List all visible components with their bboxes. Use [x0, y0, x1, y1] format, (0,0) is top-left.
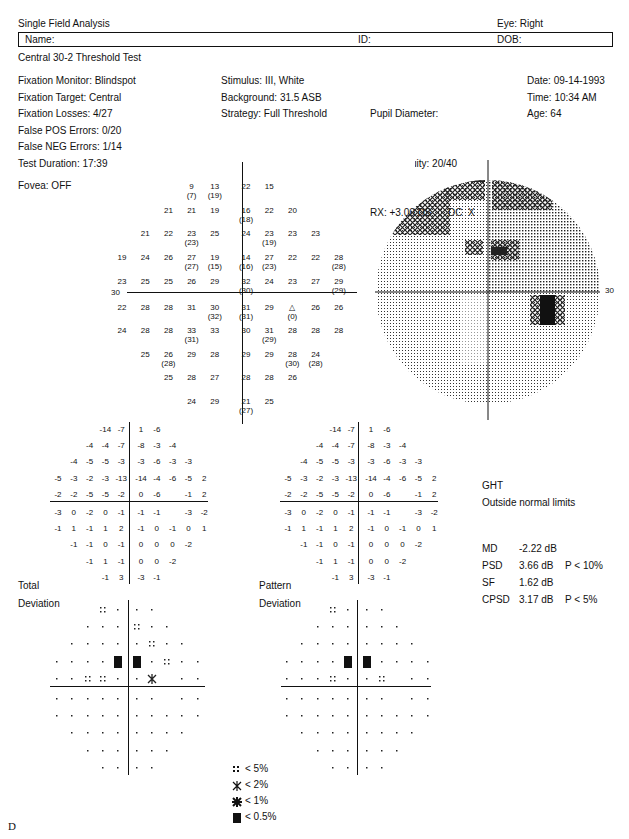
probability-symbol-icon [391, 727, 403, 739]
probability-symbol-icon [391, 621, 403, 633]
probability-symbol-icon [176, 727, 188, 739]
threshold-value: 29 [204, 277, 226, 286]
threshold-value: 31(29) [258, 326, 280, 344]
threshold-value: 27 [204, 373, 226, 382]
probability-symbol-icon [82, 745, 94, 757]
figure-letter: D [8, 820, 16, 832]
probability-symbol-icon [422, 673, 434, 685]
threshold-value: △(0) [281, 303, 303, 321]
threshold-value: 28 [181, 373, 203, 382]
threshold-value: 26 [157, 253, 179, 262]
probability-symbol-icon [192, 673, 204, 685]
deviation-value: -3 [133, 573, 149, 582]
probability-symbol-icon [361, 710, 373, 722]
threshold-value: 26(28) [157, 350, 179, 368]
global-indices: MD-2.22 dB PSD3.66 dBP < 10% SF1.62 dB C… [482, 540, 603, 608]
probability-symbol-icon [176, 693, 188, 705]
probability-symbol-icon [97, 638, 109, 650]
deviation-value: -1 [180, 490, 196, 499]
deviation-value: -2 [82, 474, 98, 483]
deviation-value: -4 [327, 441, 343, 450]
deviation-value: -3 [113, 457, 129, 466]
pattern-label: Pattern [259, 580, 291, 591]
threshold-value: 28 [157, 326, 179, 335]
deviation-value: -3 [363, 573, 379, 582]
probability-symbol-icon [342, 621, 354, 633]
probability-symbol-icon [391, 638, 403, 650]
probability-symbol-icon [146, 693, 158, 705]
dark-hatch-symbol-icon [232, 797, 242, 807]
threshold-value: 24 [181, 397, 203, 406]
probability-symbol-icon [131, 673, 143, 685]
threshold-value: 28 [157, 303, 179, 312]
deviation-value: -1 [410, 490, 426, 499]
probability-symbol-icon [342, 673, 354, 685]
deviation-value: -5 [312, 457, 328, 466]
threshold-value: 24(28) [305, 350, 327, 368]
probability-symbol-icon [342, 710, 354, 722]
deviation-value: -1 [363, 524, 379, 533]
deviation-value: 0 [149, 540, 165, 549]
deviation-value: 0 [395, 540, 411, 549]
probability-symbol-icon [342, 656, 354, 668]
deviation-value: 0 [379, 540, 395, 549]
total-deviation-label: Deviation [18, 598, 60, 609]
probability-symbol-icon [146, 621, 158, 633]
probability-symbol-icon [327, 604, 339, 616]
pp-vertical-axis [357, 600, 358, 775]
threshold-value: 25 [134, 277, 156, 286]
probability-symbol-icon [361, 621, 373, 633]
deviation-value: 0 [363, 557, 379, 566]
deviation-value: -13 [113, 474, 129, 483]
pattern-deviation-label: Deviation [259, 598, 301, 609]
deviation-value: 3 [343, 573, 359, 582]
deviation-value: -2 [82, 508, 98, 517]
probability-symbol-icon [406, 710, 418, 722]
grayscale-map [360, 155, 629, 425]
probability-symbol-icon [97, 727, 109, 739]
deviation-value: -1 [149, 573, 165, 582]
threshold-value: 22 [305, 253, 327, 262]
probability-symbol-icon [361, 693, 373, 705]
deviation-value: -1 [113, 508, 129, 517]
probability-symbol-icon [161, 638, 173, 650]
deviation-value: 0 [97, 508, 113, 517]
deviation-value: 1 [133, 425, 149, 434]
probability-symbol-icon [361, 604, 373, 616]
probability-symbol-icon [112, 638, 124, 650]
deviation-value: 2 [196, 490, 212, 499]
probability-symbol-icon [406, 656, 418, 668]
probability-symbol-icon [312, 693, 324, 705]
deviation-value: -2 [180, 540, 196, 549]
probability-symbol-icon [82, 710, 94, 722]
probability-symbol-icon [176, 638, 188, 650]
deviation-value: -1 [97, 573, 113, 582]
pd-horizontal-axis [280, 501, 438, 502]
probability-symbol-icon [131, 621, 143, 633]
deviation-value: -1 [113, 557, 129, 566]
deviation-value: -1 [312, 524, 328, 533]
deviation-value: -4 [97, 441, 113, 450]
probability-symbol-icon [376, 621, 388, 633]
deviation-value: -7 [343, 441, 359, 450]
ght-label: GHT [482, 480, 503, 491]
dots-symbol-icon [232, 765, 242, 775]
threshold-value: 22 [281, 253, 303, 262]
probability-symbol-icon [146, 727, 158, 739]
threshold-value: 33 [204, 326, 226, 335]
probability-symbol-icon [327, 621, 339, 633]
probability-symbol-icon [66, 693, 78, 705]
deviation-value: 0 [133, 490, 149, 499]
deviation-value: -6 [149, 490, 165, 499]
probability-symbol-icon [281, 656, 293, 668]
deviation-value: -1 [343, 508, 359, 517]
deviation-value: -3 [379, 441, 395, 450]
threshold-value: 32(30) [235, 277, 257, 295]
probability-symbol-icon [51, 693, 63, 705]
deviation-value: -3 [180, 457, 196, 466]
deviation-value: 1 [66, 524, 82, 533]
deviation-value: -4 [296, 457, 312, 466]
threshold-value: 20 [281, 206, 303, 215]
threshold-value: 23 [281, 229, 303, 238]
psd-row: PSD3.66 dBP < 10% [482, 557, 603, 574]
